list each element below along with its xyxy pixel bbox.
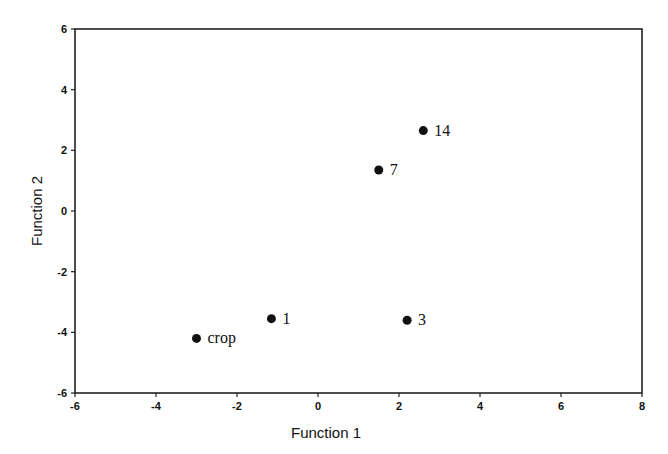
y-tick-label: 6 bbox=[61, 23, 67, 35]
plot-frame bbox=[75, 29, 642, 393]
x-axis-title: Function 1 bbox=[291, 424, 361, 441]
y-tick-label: 0 bbox=[61, 205, 67, 217]
x-tick-label: 0 bbox=[315, 400, 321, 412]
x-tick-label: 6 bbox=[558, 400, 564, 412]
x-tick-label: -2 bbox=[232, 400, 242, 412]
y-tick-label: 4 bbox=[61, 84, 68, 96]
point-marker bbox=[374, 166, 383, 175]
x-tick-label: 2 bbox=[396, 400, 402, 412]
data-points: 1471crop3 bbox=[192, 122, 450, 348]
data-point: 1 bbox=[267, 310, 291, 327]
point-label: 14 bbox=[434, 122, 450, 139]
point-label: 3 bbox=[418, 311, 426, 328]
y-tick-label: -4 bbox=[57, 326, 68, 338]
point-label: 1 bbox=[282, 310, 290, 327]
data-point: crop bbox=[192, 329, 236, 347]
y-axis-ticks: -6-4-20246 bbox=[57, 23, 75, 399]
y-tick-label: 2 bbox=[61, 144, 67, 156]
point-label: 7 bbox=[390, 161, 398, 178]
data-point: 14 bbox=[419, 122, 451, 139]
point-marker bbox=[419, 126, 428, 135]
x-tick-label: 8 bbox=[639, 400, 645, 412]
point-marker bbox=[403, 316, 412, 325]
scatter-chart: -6-4-202468 -6-4-20246 1471crop3 Functio… bbox=[0, 0, 668, 454]
y-tick-label: -2 bbox=[57, 266, 67, 278]
point-label: crop bbox=[208, 329, 236, 347]
data-point: 7 bbox=[374, 161, 398, 178]
y-tick-label: -6 bbox=[57, 387, 67, 399]
x-axis-ticks: -6-4-202468 bbox=[70, 393, 645, 412]
point-marker bbox=[267, 314, 276, 323]
y-axis-title: Function 2 bbox=[28, 176, 45, 246]
x-tick-label: -4 bbox=[151, 400, 162, 412]
x-tick-label: -6 bbox=[70, 400, 80, 412]
data-point: 3 bbox=[403, 311, 427, 328]
x-tick-label: 4 bbox=[477, 400, 484, 412]
point-marker bbox=[192, 334, 201, 343]
